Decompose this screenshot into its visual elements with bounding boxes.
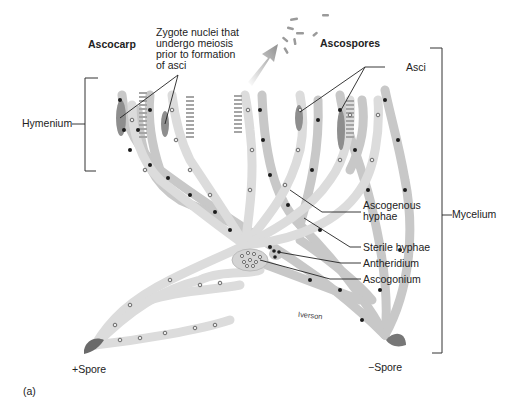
ascogonium-label: Ascogonium <box>363 274 421 285</box>
asci-label: Asci <box>406 62 426 73</box>
mycelium-label: Mycelium <box>452 209 496 220</box>
panel-label: (a) <box>23 386 36 397</box>
ascomycete-life-cycle-illustration <box>0 0 518 413</box>
plus-spore-label: +Spore <box>72 364 106 375</box>
ascocarp-label: Ascocarp <box>88 39 136 50</box>
sterile-hyphae-label: Sterile hyphae <box>363 242 430 253</box>
release-arrow-icon <box>248 44 278 86</box>
antheridium-label: Antheridium <box>363 258 419 269</box>
mycelium-bracket <box>430 48 442 353</box>
ascogenous-hyphae-label: Ascogenous hyphae <box>363 200 421 222</box>
minus-spore-label: −Spore <box>368 362 402 373</box>
hymenium-bracket <box>85 78 98 171</box>
zygote-line-4: of asci <box>156 60 239 71</box>
hymenium-label: Hymenium <box>22 118 72 129</box>
ascospores-label: Ascospores <box>320 38 380 49</box>
zygote-nuclei-label: Zygote nuclei that undergo meiosis prior… <box>156 27 239 71</box>
ascogenous-line-2: hyphae <box>363 211 421 222</box>
